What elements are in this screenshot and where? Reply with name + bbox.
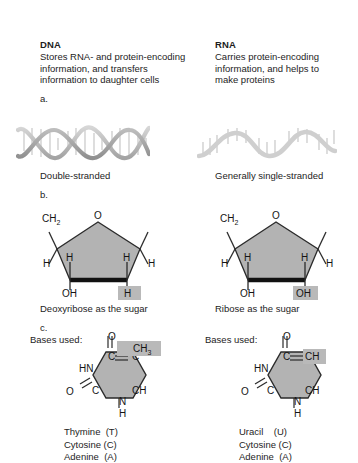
thymine-n1: N xyxy=(119,396,126,407)
ribose-c5-group: CH2 xyxy=(220,213,238,226)
dna-double-helix-illustration xyxy=(16,124,150,168)
dna-base-list-item-1: Thymine (T) xyxy=(64,426,118,438)
rna-description-line-3: make proteins xyxy=(215,74,275,86)
uracil-c6: CH xyxy=(305,385,319,396)
part-label-a: a. xyxy=(40,93,48,105)
dna-description-line-2: information, and transfers xyxy=(40,63,148,75)
dna-rna-comparison-figure: DNA Stores RNA- and protein-encoding inf… xyxy=(0,0,358,463)
dna-description-line-3: information to daughter cells xyxy=(40,74,159,86)
ribose-left-h: H xyxy=(221,258,228,269)
ribose-c2-oh-highlighted: OH xyxy=(296,288,311,299)
uracil-c5: CH xyxy=(305,351,319,362)
uracil-c2: C xyxy=(267,385,274,396)
ribose-c3-oh: OH xyxy=(240,288,255,299)
thymine-methyl-group: CH3 xyxy=(133,343,151,356)
deoxyribose-caption: Deoxyribose as the sugar xyxy=(40,303,148,315)
rna-base-list-item-3: Adenine (A) xyxy=(239,451,292,463)
thymine-c4-oxygen: O xyxy=(108,331,116,342)
ribose-right-h: H xyxy=(326,258,333,269)
thymine-c4: C xyxy=(108,351,115,362)
deoxyribose-c2-h: H xyxy=(123,252,130,263)
deoxyribose-right-h: H xyxy=(148,258,155,269)
rna-base-list-item-2: Cytosine (C) xyxy=(239,439,292,451)
dna-column-title: DNA xyxy=(40,39,61,51)
dna-description-line-1: Stores RNA- and protein-encoding xyxy=(40,51,185,63)
dna-base-list-item-2: Cytosine (C) xyxy=(64,439,117,451)
uracil-c4-oxygen: O xyxy=(283,331,291,342)
uracil-c4: C xyxy=(283,351,290,362)
thymine-c6: CH xyxy=(132,385,146,396)
rna-description-line-2: information, and helps to xyxy=(215,63,319,75)
thymine-n3-h: HN xyxy=(79,363,93,374)
dna-strand-caption: Double-stranded xyxy=(40,170,110,182)
rna-base-list-item-1: Uracil (U) xyxy=(239,426,287,438)
uracil-n1: N xyxy=(294,396,301,407)
deoxyribose-c5-group: CH2 xyxy=(42,213,60,226)
deoxyribose-c3-h: H xyxy=(66,252,73,263)
ribose-caption: Ribose as the sugar xyxy=(215,303,300,315)
part-label-c: c. xyxy=(40,322,47,334)
dna-base-list-item-3: Adenine (A) xyxy=(64,451,117,463)
deoxyribose-left-h: H xyxy=(43,258,50,269)
ribose-ring-oxygen: O xyxy=(272,210,280,221)
uracil-n1-h: H xyxy=(294,408,301,419)
rna-strand-caption: Generally single-stranded xyxy=(215,170,323,182)
thymine-c2: C xyxy=(92,385,99,396)
ribose-c3-h: H xyxy=(244,252,251,263)
deoxyribose-c3-oh: OH xyxy=(62,288,77,299)
uracil-c2-oxygen: O xyxy=(241,386,249,397)
deoxyribose-c2-h-highlighted: H xyxy=(124,288,131,299)
thymine-c2-oxygen: O xyxy=(66,386,74,397)
rna-single-strand-illustration xyxy=(197,124,337,168)
rna-description-line-1: Carries protein-encoding xyxy=(215,51,319,63)
rna-column-title: RNA xyxy=(215,39,236,51)
ribose-c2-h: H xyxy=(301,252,308,263)
uracil-n3-h: HN xyxy=(254,363,268,374)
part-label-b: b. xyxy=(40,189,48,201)
thymine-n1-h: H xyxy=(119,408,126,419)
deoxyribose-ring-oxygen: O xyxy=(94,210,102,221)
